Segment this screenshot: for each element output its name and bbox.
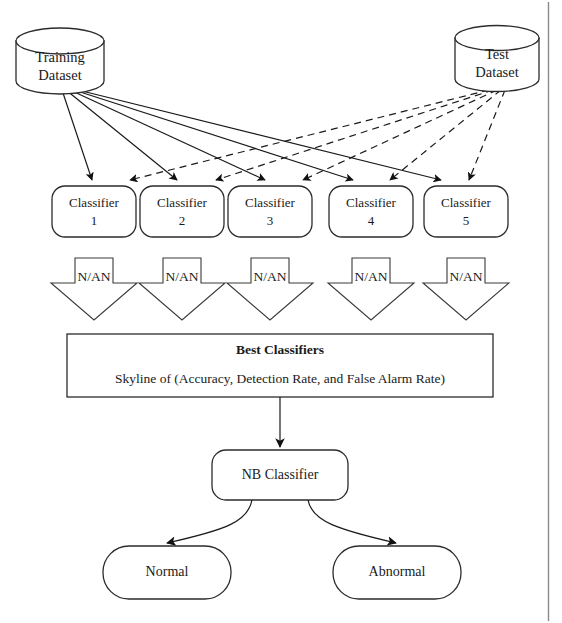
edge-nb-to-normal bbox=[167, 500, 252, 543]
classifier-3[interactable]: Classifier 3 bbox=[228, 186, 312, 237]
edge-nb-to-abnormal bbox=[308, 500, 396, 543]
classifier-box bbox=[424, 186, 508, 237]
block-arrow-down bbox=[51, 258, 137, 320]
training-dataset-label-line2: Dataset bbox=[38, 67, 81, 83]
block-arrow-down bbox=[328, 258, 414, 320]
classifier-5[interactable]: Classifier 5 bbox=[424, 186, 508, 237]
classifier-1[interactable]: Classifier 1 bbox=[52, 186, 136, 237]
edge-training-to-classifier-3 bbox=[70, 90, 265, 180]
best-classifiers-title: Best Classifiers bbox=[236, 342, 324, 357]
training-dataset-node[interactable]: Training Dataset bbox=[16, 28, 104, 94]
classifier-label-line2: 5 bbox=[463, 213, 470, 228]
training-dataset-label-line1: Training bbox=[35, 49, 84, 65]
edge-training-to-classifier-2 bbox=[66, 90, 177, 180]
result-label: Abnormal bbox=[369, 564, 426, 579]
test-dataset-node[interactable]: Test Dataset bbox=[455, 26, 539, 92]
classifier-label-line2: 4 bbox=[368, 213, 375, 228]
output-arrow-1: N/AN bbox=[51, 258, 137, 320]
output-arrow-label: N/AN bbox=[78, 269, 111, 284]
nb-classifier-label: NB Classifier bbox=[242, 467, 319, 482]
test-dataset-label-line1: Test bbox=[485, 46, 509, 62]
classifier-label-line1: Classifier bbox=[441, 195, 491, 210]
classifier-box bbox=[228, 186, 312, 237]
classifier-box bbox=[329, 186, 413, 237]
classifier-label-line2: 2 bbox=[179, 213, 186, 228]
block-arrow-down bbox=[227, 258, 313, 320]
output-arrow-label: N/AN bbox=[355, 269, 388, 284]
output-arrow-label: N/AN bbox=[166, 269, 199, 284]
classifier-label-line2: 3 bbox=[267, 213, 274, 228]
block-arrow-down bbox=[139, 258, 225, 320]
diagram-canvas: Training Dataset Test Dataset Classifier… bbox=[0, 0, 562, 623]
classifier-box bbox=[140, 186, 224, 237]
output-arrow-4: N/AN bbox=[328, 258, 414, 320]
flow-diagram: Training Dataset Test Dataset Classifier… bbox=[0, 0, 562, 623]
classifier-4[interactable]: Classifier 4 bbox=[329, 186, 413, 237]
classifier-label-line1: Classifier bbox=[157, 195, 207, 210]
edge-test-to-classifier-3 bbox=[303, 90, 497, 180]
nb-classifier-node[interactable]: NB Classifier bbox=[212, 450, 348, 500]
classifier-label-line2: 1 bbox=[91, 213, 98, 228]
classifier-label-line1: Classifier bbox=[69, 195, 119, 210]
classifier-label-line1: Classifier bbox=[245, 195, 295, 210]
edge-training-to-classifier-1 bbox=[62, 90, 92, 180]
edge-test-to-classifier-5 bbox=[469, 90, 505, 180]
best-classifiers-node[interactable]: Best Classifiers Skyline of (Accuracy, D… bbox=[67, 334, 493, 397]
output-arrow-5: N/AN bbox=[423, 258, 509, 320]
result-abnormal[interactable]: Abnormal bbox=[333, 546, 461, 599]
result-normal[interactable]: Normal bbox=[103, 546, 231, 599]
test-dataset-label-line2: Dataset bbox=[475, 64, 518, 80]
result-label: Normal bbox=[146, 564, 189, 579]
classifier-box bbox=[52, 186, 136, 237]
best-classifiers-subtitle: Skyline of (Accuracy, Detection Rate, an… bbox=[115, 371, 445, 386]
block-arrow-down bbox=[423, 258, 509, 320]
output-arrow-3: N/AN bbox=[227, 258, 313, 320]
test-to-classifiers-edges bbox=[130, 90, 505, 180]
training-to-classifiers-edges bbox=[62, 90, 441, 180]
edge-training-to-classifier-5 bbox=[78, 90, 441, 180]
output-arrow-label: N/AN bbox=[254, 269, 287, 284]
edge-test-to-classifier-4 bbox=[390, 90, 501, 180]
classifier-label-line1: Classifier bbox=[346, 195, 396, 210]
classifier-2[interactable]: Classifier 2 bbox=[140, 186, 224, 237]
output-arrow-2: N/AN bbox=[139, 258, 225, 320]
page-frame bbox=[549, 2, 562, 621]
output-arrow-label: N/AN bbox=[450, 269, 483, 284]
